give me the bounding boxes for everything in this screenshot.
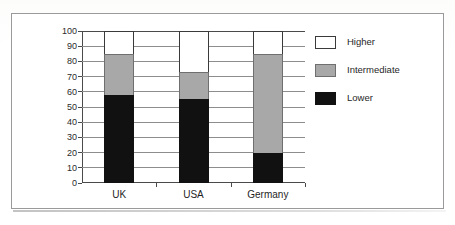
legend-swatch-higher (315, 36, 336, 49)
legend-item-higher[interactable]: Higher (315, 31, 435, 53)
y-tick-mark-90 (78, 46, 82, 47)
bar-segment-germany-higher[interactable] (253, 31, 283, 54)
chart-legend: HigherIntermediateLower (315, 31, 435, 115)
y-tick-mark-50 (78, 107, 82, 108)
x-tick-mark-2 (305, 183, 306, 187)
scan-shadow (13, 210, 446, 212)
y-tick-mark-80 (78, 61, 82, 62)
bar-segment-germany-lower[interactable] (253, 153, 283, 183)
bar-usa[interactable] (179, 31, 209, 183)
bar-segment-usa-intermediate[interactable] (179, 72, 209, 99)
bar-segment-uk-lower[interactable] (104, 95, 134, 183)
plot-area: 0102030405060708090100 UKUSAGermany (82, 31, 305, 183)
bar-segment-usa-lower[interactable] (179, 99, 209, 183)
y-tick-mark-20 (78, 152, 82, 153)
y-tick-label-0: 0 (72, 179, 77, 188)
bar-germany[interactable] (253, 31, 283, 183)
y-tick-label-100: 100 (62, 27, 77, 36)
y-tick-label-30: 30 (67, 133, 77, 142)
y-tick-label-60: 60 (67, 87, 77, 96)
x-tick-mark-0 (156, 183, 157, 187)
bar-uk[interactable] (104, 31, 134, 183)
x-tick-label-germany: Germany (247, 190, 288, 200)
y-tick-mark-70 (78, 76, 82, 77)
stacked-bar-chart: 0102030405060708090100 UKUSAGermany High… (11, 13, 444, 209)
y-tick-label-10: 10 (67, 163, 77, 172)
y-tick-mark-0 (78, 183, 82, 184)
y-tick-mark-40 (78, 122, 82, 123)
legend-label-higher: Higher (347, 37, 375, 47)
bar-segment-uk-higher[interactable] (104, 31, 134, 54)
y-tick-label-80: 80 (67, 57, 77, 66)
legend-label-intermediate: Intermediate (347, 65, 400, 75)
legend-item-intermediate[interactable]: Intermediate (315, 59, 435, 81)
legend-swatch-lower (315, 92, 336, 105)
y-tick-label-90: 90 (67, 42, 77, 51)
y-tick-mark-10 (78, 167, 82, 168)
x-tick-label-usa: USA (183, 190, 204, 200)
y-tick-label-40: 40 (67, 118, 77, 127)
legend-swatch-intermediate (315, 64, 336, 77)
legend-label-lower: Lower (347, 93, 373, 103)
y-tick-mark-60 (78, 91, 82, 92)
y-tick-label-20: 20 (67, 148, 77, 157)
bar-segment-germany-intermediate[interactable] (253, 54, 283, 153)
bar-segment-uk-intermediate[interactable] (104, 54, 134, 95)
x-tick-label-uk: UK (112, 190, 126, 200)
x-tick-mark-1 (231, 183, 232, 187)
y-tick-label-70: 70 (67, 72, 77, 81)
y-tick-mark-30 (78, 137, 82, 138)
y-tick-mark-100 (78, 31, 82, 32)
y-tick-label-50: 50 (67, 103, 77, 112)
legend-item-lower[interactable]: Lower (315, 87, 435, 109)
bar-segment-usa-higher[interactable] (179, 31, 209, 72)
